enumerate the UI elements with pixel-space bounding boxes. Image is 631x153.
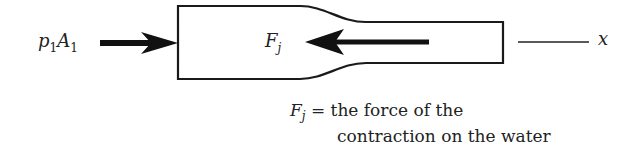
pressure-force-arrow bbox=[100, 32, 178, 54]
contraction-force-arrow bbox=[305, 29, 429, 55]
caption-line-1: Fj = the force of the bbox=[290, 100, 551, 126]
x-axis-label: x bbox=[598, 28, 608, 49]
contraction-force-label: Fj bbox=[265, 30, 281, 55]
pressure-force-label: p1A1 bbox=[38, 30, 78, 55]
caption: Fj = the force of the contraction on the… bbox=[290, 100, 551, 146]
caption-line-2: contraction on the water bbox=[290, 126, 551, 146]
